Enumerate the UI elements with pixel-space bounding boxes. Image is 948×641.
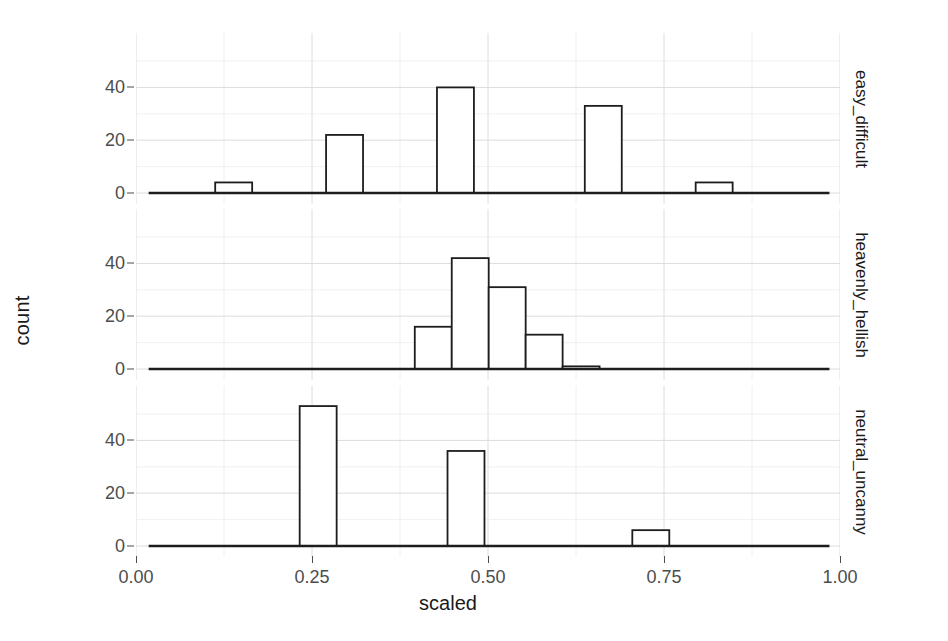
y-tick-label: 20 bbox=[105, 130, 125, 151]
x-tick-mark bbox=[488, 556, 489, 563]
y-axis-title-text: count bbox=[12, 296, 35, 346]
x-tick-label: 0.50 bbox=[470, 567, 505, 588]
histogram-bar bbox=[632, 530, 669, 546]
y-tick-mark bbox=[127, 546, 134, 547]
y-tick-mark bbox=[127, 140, 134, 141]
y-tick-mark bbox=[127, 316, 134, 317]
y-tick-label: 40 bbox=[105, 430, 125, 451]
histogram-bar bbox=[489, 287, 526, 369]
facet-strip-text: easy_difficult bbox=[851, 70, 871, 168]
y-tick-label: 0 bbox=[115, 359, 125, 380]
plot-area bbox=[136, 386, 840, 557]
x-tick-label: 0.75 bbox=[646, 567, 681, 588]
x-tick-label: 0.25 bbox=[294, 567, 329, 588]
y-tick-mark bbox=[127, 440, 134, 441]
facet-panel-easy_difficult: 02040 bbox=[136, 33, 840, 204]
y-tick-mark bbox=[127, 263, 134, 264]
x-tick-mark bbox=[840, 556, 841, 563]
y-tick-label: 40 bbox=[105, 77, 125, 98]
x-axis-title-text: scaled bbox=[419, 592, 477, 615]
histogram-bar bbox=[526, 335, 563, 369]
y-tick-label: 20 bbox=[105, 306, 125, 327]
y-tick-label: 0 bbox=[115, 183, 125, 204]
plot-area bbox=[136, 209, 840, 380]
facet-strip-label-heavenly_hellish: heavenly_hellish bbox=[844, 209, 878, 380]
y-tick-label: 0 bbox=[115, 536, 125, 557]
facet-strip-label-neutral_uncanny: neutral_uncanny bbox=[844, 386, 878, 557]
facet-strip-text: neutral_uncanny bbox=[851, 409, 871, 535]
histogram-bar bbox=[300, 406, 337, 546]
y-tick-label: 20 bbox=[105, 483, 125, 504]
histogram-facet-figure: count 020400204002040 scaled 0.000.250.5… bbox=[0, 0, 948, 641]
x-tick-mark bbox=[136, 556, 137, 563]
histogram-bar bbox=[215, 182, 252, 193]
y-tick-mark bbox=[127, 193, 134, 194]
y-tick-mark bbox=[127, 369, 134, 370]
facet-panel-neutral_uncanny: 02040 bbox=[136, 386, 840, 557]
facet-panel-heavenly_hellish: 02040 bbox=[136, 209, 840, 380]
histogram-bar bbox=[448, 451, 485, 546]
y-tick-label: 40 bbox=[105, 253, 125, 274]
plot-area bbox=[136, 33, 840, 204]
x-tick-label: 1.00 bbox=[822, 567, 857, 588]
facet-strip-label-easy_difficult: easy_difficult bbox=[844, 33, 878, 204]
x-tick-mark bbox=[312, 556, 313, 563]
facet-strip-text: heavenly_hellish bbox=[851, 232, 871, 358]
y-axis-title: count bbox=[6, 0, 40, 641]
histogram-bar bbox=[585, 106, 622, 193]
x-tick-mark bbox=[664, 556, 665, 563]
histogram-bar bbox=[452, 258, 489, 369]
y-tick-mark bbox=[127, 493, 134, 494]
x-axis-title: scaled bbox=[0, 592, 948, 615]
histogram-bar bbox=[326, 135, 363, 193]
histogram-bar bbox=[437, 87, 474, 193]
histogram-bar bbox=[415, 327, 452, 369]
x-tick-label: 0.00 bbox=[118, 567, 153, 588]
y-tick-mark bbox=[127, 87, 134, 88]
histogram-bar bbox=[696, 182, 733, 193]
